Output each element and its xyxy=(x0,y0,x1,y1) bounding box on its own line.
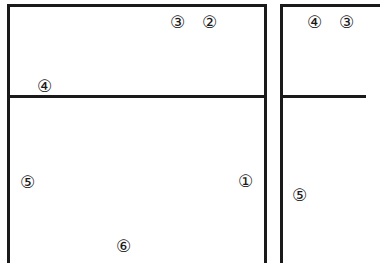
right-panel-divider xyxy=(280,95,366,98)
left-label-3: ③ xyxy=(170,14,185,31)
left-label-6: ⑥ xyxy=(116,238,131,255)
right-label-4: ④ xyxy=(307,14,322,31)
left-label-2: ② xyxy=(202,14,217,31)
right-label-3: ③ xyxy=(339,14,354,31)
left-label-4: ④ xyxy=(37,78,52,95)
left-panel-frame xyxy=(7,4,267,263)
left-label-5: ⑤ xyxy=(20,174,35,191)
right-label-5: ⑤ xyxy=(292,187,307,204)
right-panel-frame xyxy=(280,4,380,263)
left-label-1: ① xyxy=(238,173,253,190)
